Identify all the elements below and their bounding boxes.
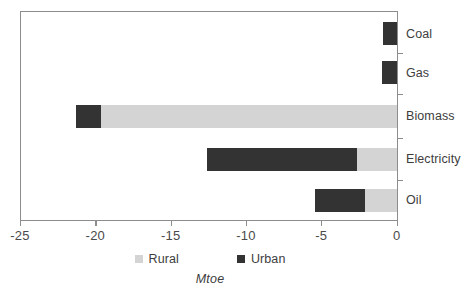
x-tick-label: -20	[86, 228, 105, 243]
category-label-coal: Coal	[406, 27, 432, 41]
x-tick-label: -10	[236, 228, 255, 243]
bar-segment-rural[interactable]	[365, 189, 397, 212]
bar-row	[0, 148, 468, 171]
bar-segment-urban[interactable]	[76, 105, 102, 128]
legend-label-urban: Urban	[251, 252, 286, 266]
x-axis-title: Mtoe	[0, 272, 420, 286]
bar-segment-urban[interactable]	[383, 22, 397, 45]
x-tick-mark	[246, 220, 247, 226]
bar-segment-rural[interactable]	[357, 148, 396, 171]
bar-segment-urban[interactable]	[207, 148, 358, 171]
category-label-electricity: Electricity	[406, 152, 461, 166]
x-tick-label: -15	[161, 228, 180, 243]
x-tick-mark	[95, 220, 96, 226]
legend-label-rural: Rural	[149, 252, 179, 266]
chart-legend: Rural Urban	[0, 252, 420, 266]
category-label-gas: Gas	[406, 66, 429, 80]
bar-row	[0, 189, 468, 212]
urban-swatch-icon	[237, 255, 245, 263]
bar-segment-urban[interactable]	[382, 61, 397, 84]
y-tick-mark	[397, 94, 403, 95]
x-tick-mark	[20, 220, 21, 226]
y-tick-mark	[397, 53, 403, 54]
bar-row	[0, 22, 468, 45]
x-tick-mark	[171, 220, 172, 226]
rural-swatch-icon	[135, 255, 143, 263]
bar-row	[0, 105, 468, 128]
legend-item-rural[interactable]: Rural	[135, 252, 179, 266]
y-tick-mark	[397, 180, 403, 181]
x-tick-mark	[321, 220, 322, 226]
y-tick-mark	[397, 138, 403, 139]
x-tick-mark	[397, 220, 398, 226]
category-label-oil: Oil	[406, 193, 422, 207]
x-tick-label: -5	[315, 228, 327, 243]
stacked-bar-chart: -25-20-15-10-50 CoalGasBiomassElectricit…	[0, 0, 468, 296]
bar-row	[0, 61, 468, 84]
category-label-biomass: Biomass	[406, 109, 455, 123]
x-tick-label: -25	[10, 228, 29, 243]
bar-segment-rural[interactable]	[101, 105, 396, 128]
bar-segment-urban[interactable]	[315, 189, 365, 212]
x-tick-label: 0	[393, 228, 400, 243]
legend-item-urban[interactable]: Urban	[237, 252, 286, 266]
